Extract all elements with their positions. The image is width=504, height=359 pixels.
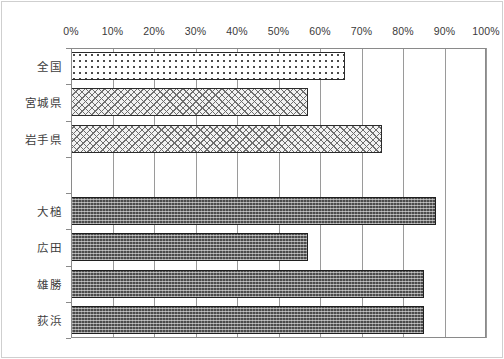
bar-3 xyxy=(71,197,436,225)
bar-5 xyxy=(71,270,424,298)
category-label-3: 大槌 xyxy=(37,203,62,219)
bar-1 xyxy=(71,88,308,116)
bar-chart: 0%10%20%30%40%50%60%70%80%90%100% 全国宮城県岩… xyxy=(0,0,504,359)
category-label-2: 岩手県 xyxy=(25,131,63,147)
y-tick-mark xyxy=(66,302,71,303)
x-tick-label-10: 10% xyxy=(102,25,124,37)
x-tick-label-40: 40% xyxy=(226,25,248,37)
bar-2 xyxy=(71,125,382,153)
x-axis-tick-labels: 0%10%20%30%40%50%60%70%80%90%100% xyxy=(0,25,504,41)
y-tick-mark xyxy=(66,229,71,230)
x-tick-label-90: 90% xyxy=(434,25,456,37)
x-tick-label-80: 80% xyxy=(392,25,414,37)
x-tick-label-30: 30% xyxy=(185,25,207,37)
category-label-1: 宮城県 xyxy=(25,94,63,110)
y-tick-mark xyxy=(66,157,71,158)
x-tick-label-20: 20% xyxy=(143,25,165,37)
bar-6 xyxy=(71,306,424,334)
category-label-6: 荻浜 xyxy=(37,312,62,328)
x-tick-label-100: 100% xyxy=(472,25,500,37)
y-tick-mark xyxy=(66,266,71,267)
x-tick-label-70: 70% xyxy=(351,25,373,37)
y-axis-category-labels: 全国宮城県岩手県大槌広田雄勝荻浜 xyxy=(0,48,66,338)
y-tick-mark xyxy=(66,121,71,122)
category-label-4: 広田 xyxy=(37,239,62,255)
x-tick-label-50: 50% xyxy=(268,25,290,37)
plot-area xyxy=(71,48,486,338)
y-tick-mark xyxy=(66,338,71,339)
category-label-0: 全国 xyxy=(37,58,62,74)
bar-0 xyxy=(71,52,345,80)
x-tick-label-60: 60% xyxy=(309,25,331,37)
y-tick-mark xyxy=(66,84,71,85)
y-tick-mark xyxy=(66,48,71,49)
y-tick-mark xyxy=(66,193,71,194)
bar-4 xyxy=(71,233,308,261)
gridline-100 xyxy=(486,48,487,338)
gridline-90 xyxy=(445,48,446,338)
category-label-5: 雄勝 xyxy=(37,276,62,292)
x-tick-label-0: 0% xyxy=(63,25,79,37)
